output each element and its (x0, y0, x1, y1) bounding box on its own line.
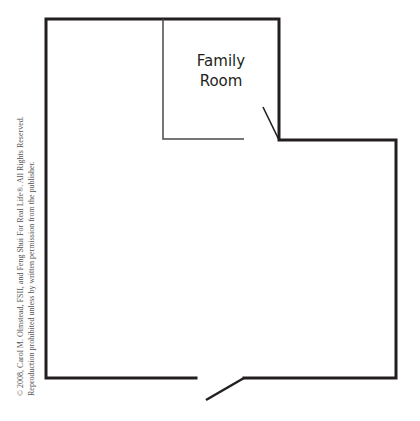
family-room-door-swing (263, 107, 279, 140)
room-label-line-2: Room (200, 72, 243, 90)
copyright-notice: © 2008, Carol M. Olmstead, FSII, and Fen… (17, 116, 25, 396)
reproduction-notice: Reproduction prohibited unless by writte… (28, 161, 36, 396)
room-label-line-1: Family (197, 52, 245, 70)
floor-plan: Family Room (0, 0, 420, 421)
entry-door-swing (206, 378, 244, 400)
